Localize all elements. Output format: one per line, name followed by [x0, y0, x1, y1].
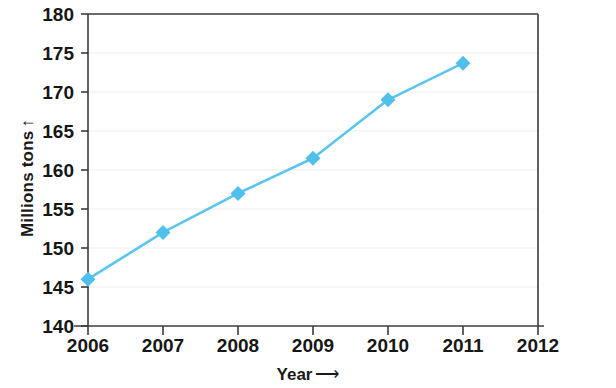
plot-area [0, 0, 616, 388]
data-point-marker [231, 186, 246, 201]
line-chart: Millions tons↑ 1401451501551601651701751… [0, 0, 616, 388]
data-line [88, 63, 463, 279]
data-point-marker [456, 56, 471, 71]
x-axis-tick-label: 2007 [123, 336, 203, 355]
x-axis-title-text: Year [277, 365, 313, 384]
data-point-marker [156, 225, 171, 240]
x-axis-tick-label: 2011 [423, 336, 503, 355]
x-axis-arrow-icon: ⟶ [312, 364, 339, 385]
data-markers [81, 56, 471, 287]
gridlines [88, 14, 538, 287]
x-axis-tick-label: 2008 [198, 336, 278, 355]
x-axis-tick-label: 2009 [273, 336, 353, 355]
x-axis-title: Year⟶ [0, 364, 616, 385]
x-axis-tick-label: 2012 [498, 336, 578, 355]
x-axis-ticks [88, 326, 538, 335]
x-axis-tick-label: 2010 [348, 336, 428, 355]
x-axis-tick-label: 2006 [48, 336, 128, 355]
data-point-marker [81, 272, 96, 287]
